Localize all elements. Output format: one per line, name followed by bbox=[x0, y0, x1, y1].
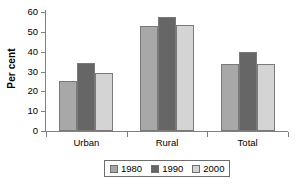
x-axis-tick bbox=[207, 132, 208, 137]
x-axis-label-total: Total bbox=[207, 138, 288, 148]
x-axis-tick bbox=[46, 132, 47, 137]
x-axis-tick bbox=[288, 132, 289, 137]
legend-swatch-icon bbox=[110, 165, 118, 173]
y-axis-tick-label: 60 bbox=[14, 7, 38, 17]
plot-area bbox=[46, 12, 288, 131]
legend-item-1990: 1990 bbox=[151, 164, 183, 174]
legend-label: 1990 bbox=[162, 164, 183, 174]
y-axis-tick-label: 40 bbox=[14, 47, 38, 57]
bar-urban-1980 bbox=[59, 81, 77, 131]
legend-item-2000: 2000 bbox=[192, 164, 224, 174]
bar-urban-1990 bbox=[77, 63, 95, 131]
legend-swatch-icon bbox=[151, 165, 159, 173]
legend-label: 2000 bbox=[203, 164, 224, 174]
bar-total-1980 bbox=[221, 64, 239, 131]
legend-swatch-icon bbox=[192, 165, 200, 173]
bar-rural-1980 bbox=[140, 26, 158, 131]
bar-urban-2000 bbox=[95, 73, 113, 132]
y-axis-tick-label: 20 bbox=[14, 86, 38, 96]
x-axis-tick bbox=[127, 132, 128, 137]
legend-item-1980: 1980 bbox=[110, 164, 142, 174]
y-axis-tick-label: 10 bbox=[14, 106, 38, 116]
y-axis-tick-label: 50 bbox=[14, 27, 38, 37]
bar-chart: Per cent 0102030405060 UrbanRuralTotal 1… bbox=[0, 0, 300, 187]
bar-total-1990 bbox=[239, 52, 257, 131]
bar-total-2000 bbox=[257, 64, 275, 131]
chart-legend: 198019902000 bbox=[104, 160, 230, 177]
x-axis-label-urban: Urban bbox=[46, 138, 127, 148]
y-axis-tick-label: 30 bbox=[14, 67, 38, 77]
x-axis-label-rural: Rural bbox=[127, 138, 208, 148]
y-axis-tick-label: 0 bbox=[14, 126, 38, 136]
bar-rural-1990 bbox=[158, 17, 176, 131]
legend-label: 1980 bbox=[121, 164, 142, 174]
x-axis-line bbox=[41, 131, 288, 132]
bar-rural-2000 bbox=[176, 25, 194, 131]
